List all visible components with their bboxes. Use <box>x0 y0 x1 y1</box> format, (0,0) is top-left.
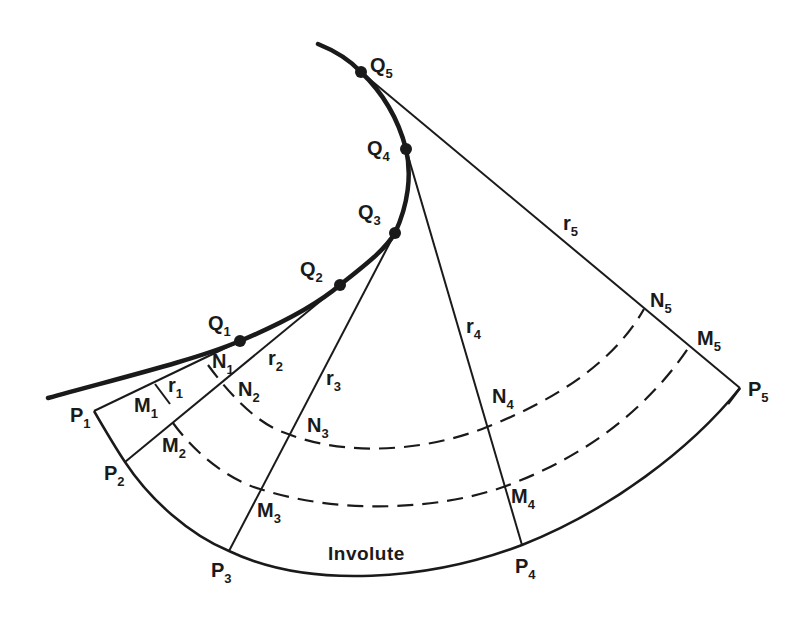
label-q1: Q1 <box>208 312 231 339</box>
n-dashed-arc <box>208 309 644 449</box>
label-p3: P3 <box>211 559 232 586</box>
label-n5: N5 <box>650 289 672 316</box>
m-dashed-arc <box>173 347 689 506</box>
segment-p5-corner <box>728 388 740 404</box>
label-q4: Q4 <box>367 137 391 164</box>
label-n2: N2 <box>238 378 260 405</box>
label-m5: M5 <box>697 327 721 354</box>
label-r3: r3 <box>326 367 341 394</box>
label-m3: M3 <box>257 499 281 526</box>
label-m2: M2 <box>162 434 186 461</box>
label-p2: P2 <box>104 462 125 489</box>
radius-line-r5 <box>361 72 740 388</box>
label-p1: P1 <box>70 404 91 431</box>
label-r2: r2 <box>268 347 283 374</box>
label-q2: Q2 <box>300 258 323 285</box>
label-r4: r4 <box>466 315 482 342</box>
label-r1: r1 <box>168 374 183 401</box>
involute-diagram: Q5 Q4 Q3 Q2 Q1 r1 r2 r3 r4 r5 N1 N2 N3 N… <box>0 0 805 620</box>
point-q3-dot <box>389 227 401 239</box>
involute-curve <box>94 388 740 576</box>
label-n3: N3 <box>307 414 329 441</box>
point-q1-dot <box>234 335 246 347</box>
label-m4: M4 <box>511 485 536 512</box>
point-q4-dot <box>400 143 412 155</box>
label-p4: P4 <box>515 555 536 582</box>
point-q5-dot <box>355 66 367 78</box>
label-q3: Q3 <box>358 201 381 228</box>
label-p5: P5 <box>748 378 769 405</box>
label-n4: N4 <box>492 385 514 412</box>
point-q2-dot <box>334 279 346 291</box>
involute-label: Involute <box>328 543 405 564</box>
label-m1: M1 <box>134 394 158 421</box>
evolute-curve <box>48 44 409 398</box>
label-r5: r5 <box>563 212 578 239</box>
label-q5: Q5 <box>370 54 393 81</box>
